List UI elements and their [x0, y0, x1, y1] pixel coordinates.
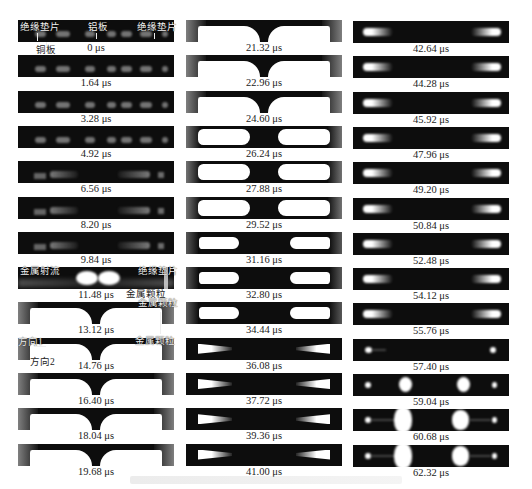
photo-frame-cell: 3.28 μs	[18, 91, 174, 127]
photo-frame-cell: 52.48 μs	[353, 233, 509, 269]
frame-time-label: 26.24 μs	[186, 148, 342, 160]
luminous-region	[471, 169, 501, 177]
luminous-region	[199, 272, 239, 284]
luminous-region	[100, 308, 162, 324]
photo-frame	[186, 20, 342, 42]
frame-time-label: 16.40 μs	[18, 395, 174, 407]
photo-frame-cell: 18.04 μs	[18, 408, 174, 444]
luminous-region	[100, 414, 162, 430]
photo-frame-cell: 29.52 μs	[186, 197, 342, 233]
luminous-region	[158, 243, 164, 249]
luminous-region	[278, 129, 330, 145]
luminous-region	[76, 271, 98, 285]
photo-frame-cell: 26.24 μs	[186, 126, 342, 162]
luminous-region	[268, 26, 330, 42]
luminous-region	[198, 164, 250, 180]
photo-frame	[353, 92, 509, 114]
luminous-region	[471, 63, 501, 71]
frame-time-label: 59.04 μs	[353, 396, 509, 408]
photo-frame	[353, 198, 509, 220]
luminous-region	[198, 129, 250, 145]
annotation-arrow-icon	[37, 33, 38, 41]
photo-frame	[353, 268, 509, 290]
luminous-region	[35, 66, 46, 72]
luminous-region	[85, 137, 95, 143]
frame-time-label: 47.96 μs	[353, 149, 509, 161]
photo-frame-cell: 16.40 μs	[18, 373, 174, 409]
photo-frame	[353, 233, 509, 255]
frame-time-label: 22.96 μs	[186, 77, 342, 89]
luminous-region	[296, 450, 330, 460]
luminous-region	[118, 171, 150, 178]
luminous-region	[158, 208, 164, 214]
annotation-arrow-icon	[96, 33, 97, 39]
luminous-region	[328, 197, 342, 219]
photo-frame-cell: 8.20 μs	[18, 197, 174, 233]
frame-time-label: 32.80 μs	[186, 289, 342, 301]
photo-frame-cell: 39.36 μs	[186, 408, 342, 444]
photo-frame	[18, 444, 174, 466]
frame-time-label: 34.44 μs	[186, 324, 342, 336]
luminous-region	[121, 102, 132, 108]
annotation-aluminum-plate: 铝板	[88, 22, 108, 32]
frame-time-label: 13.12 μs	[18, 324, 174, 336]
luminous-region	[30, 450, 92, 466]
frame-time-label: 50.84 μs	[353, 220, 509, 232]
luminous-region	[471, 134, 501, 142]
frame-time-label: 3.28 μs	[18, 113, 174, 125]
photo-frame-cell: 45.92 μs	[353, 92, 509, 128]
frame-time-label: 9.84 μs	[18, 254, 174, 266]
frame-time-label: 37.72 μs	[186, 395, 342, 407]
photo-frame	[353, 127, 509, 149]
luminous-region	[107, 102, 116, 108]
frame-time-label: 24.60 μs	[186, 113, 342, 125]
luminous-region	[118, 242, 150, 249]
frame-time-label: 4.92 μs	[18, 148, 174, 160]
luminous-region	[50, 242, 78, 249]
photo-frame-cell: 21.32 μs	[186, 20, 342, 56]
frame-time-label: 45.92 μs	[353, 114, 509, 126]
luminous-region	[278, 164, 330, 180]
luminous-region	[85, 66, 95, 72]
luminous-region	[490, 347, 496, 353]
luminous-region	[100, 344, 162, 360]
photo-frame-cell: 24.60 μs	[186, 91, 342, 127]
luminous-region	[186, 302, 198, 324]
annotation-metal-particles-2: 金属颗粒	[138, 298, 178, 308]
figure-caption	[130, 476, 402, 484]
photo-frame-cell: 22.96 μs	[186, 55, 342, 91]
photo-frame	[18, 408, 174, 430]
photo-frame-cell: 59.04 μs	[353, 374, 509, 410]
luminous-region	[363, 28, 393, 36]
annotation-insulating-pad-right: 绝缘垫片	[137, 22, 177, 32]
luminous-region	[471, 275, 501, 283]
luminous-region	[452, 410, 469, 430]
luminous-region	[363, 99, 393, 107]
photo-frame	[18, 55, 174, 77]
photo-frame-cell: 9.84 μs	[18, 232, 174, 268]
frame-time-label: 36.08 μs	[186, 360, 342, 372]
photo-frame	[186, 91, 342, 113]
frame-time-label: 52.48 μs	[353, 255, 509, 267]
luminous-region	[296, 379, 330, 389]
frame-time-label: 27.88 μs	[186, 183, 342, 195]
photo-frame	[353, 409, 509, 431]
luminous-region	[162, 102, 168, 108]
luminous-region	[457, 377, 470, 392]
luminous-region	[35, 102, 46, 108]
luminous-region	[199, 237, 239, 249]
frame-time-label: 39.36 μs	[186, 430, 342, 442]
luminous-region	[469, 419, 491, 421]
photo-frame	[186, 338, 342, 360]
luminous-region	[278, 200, 330, 216]
photo-frame-cell: 42.64 μs	[353, 21, 509, 57]
luminous-region	[363, 169, 393, 177]
frame-time-label: 21.32 μs	[186, 42, 342, 54]
luminous-region	[290, 272, 330, 284]
luminous-region	[50, 171, 78, 178]
photo-frame	[186, 444, 342, 466]
luminous-region	[328, 161, 342, 183]
luminous-region	[186, 232, 198, 254]
luminous-region	[30, 379, 92, 395]
luminous-region	[296, 414, 330, 424]
